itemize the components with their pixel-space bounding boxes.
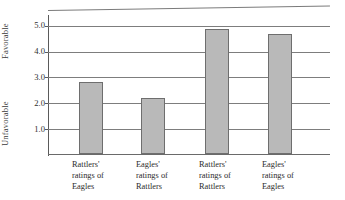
y-tick-mark (45, 103, 48, 104)
x-axis-label-line: ratings of (199, 170, 269, 181)
gridline (48, 26, 330, 27)
y-tick-label: 5.0 (19, 21, 45, 30)
x-axis-label-line: Eagles (72, 181, 142, 192)
y-axis-favorable-label: Favorable (0, 10, 14, 72)
x-axis-label-line: Rattlers (199, 181, 269, 192)
y-tick-label: 4.0 (19, 47, 45, 56)
plot-area (48, 18, 330, 155)
x-axis-label-line: Eagles' (136, 159, 206, 170)
y-axis-line (48, 15, 49, 156)
plot-top-border (48, 6, 330, 11)
x-axis-label-line: Rattlers' (72, 159, 142, 170)
y-tick-label: 3.0 (19, 73, 45, 82)
x-axis-label-line: Rattlers (136, 181, 206, 192)
y-tick-mark (45, 77, 48, 78)
y-tick-mark (45, 26, 48, 27)
bar (205, 29, 229, 154)
x-axis-label-line: ratings of (136, 170, 206, 181)
x-axis-label-line: ratings of (72, 170, 142, 181)
bar (79, 82, 103, 154)
bar (268, 34, 292, 154)
x-axis-label-line: Eagles (262, 181, 332, 192)
y-axis-tick-labels: 5.0 4.0 3.0 2.0 1.0 (17, 0, 45, 200)
x-axis-label: Eagles' ratings of Rattlers (136, 159, 206, 192)
y-tick-mark (45, 129, 48, 130)
x-axis-line (48, 154, 330, 155)
bar (141, 98, 165, 154)
y-tick-mark (45, 52, 48, 53)
x-axis-category-labels: Rattlers' ratings of Eagles Eagles' rati… (48, 159, 330, 200)
x-axis-label-line: ratings of (262, 170, 332, 181)
y-tick-label: 1.0 (19, 125, 45, 134)
x-axis-label: Rattlers' ratings of Eagles (72, 159, 142, 192)
x-axis-label: Rattlers' ratings of Rattlers (199, 159, 269, 192)
x-axis-label-line: Eagles' (262, 159, 332, 170)
x-axis-label-line: Rattlers' (199, 159, 269, 170)
y-axis-unfavorable-label: Unfavorable (0, 86, 14, 162)
y-tick-label: 2.0 (19, 99, 45, 108)
bar-chart: Favorable Unfavorable 5.0 4.0 3.0 2.0 1.… (0, 0, 345, 200)
x-axis-label: Eagles' ratings of Eagles (262, 159, 332, 192)
